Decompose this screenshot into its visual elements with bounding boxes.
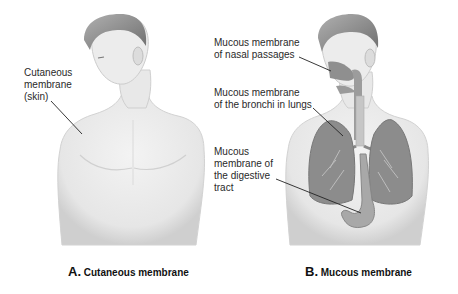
figure-b-body <box>286 14 429 245</box>
caption-b-letter: B. <box>305 264 318 279</box>
caption-b: B. Mucous membrane <box>305 264 412 279</box>
caption-a-text: Cutaneous membrane <box>84 267 189 278</box>
caption-b-text: Mucous membrane <box>321 267 412 278</box>
caption-a-letter: A. <box>68 264 81 279</box>
label-digestive-mucosa: Mucous membrane of the digestive tract <box>214 146 273 194</box>
label-cutaneous-membrane: Cutaneous membrane (skin) <box>24 67 72 103</box>
leader-line-skin <box>51 101 82 134</box>
label-nasal-mucosa: Mucous membrane of nasal passages <box>214 37 300 61</box>
figure-a-body <box>58 14 205 245</box>
label-bronchi-mucosa: Mucous membrane of the bronchi in lungs <box>214 87 312 111</box>
caption-a: A. Cutaneous membrane <box>68 264 189 279</box>
